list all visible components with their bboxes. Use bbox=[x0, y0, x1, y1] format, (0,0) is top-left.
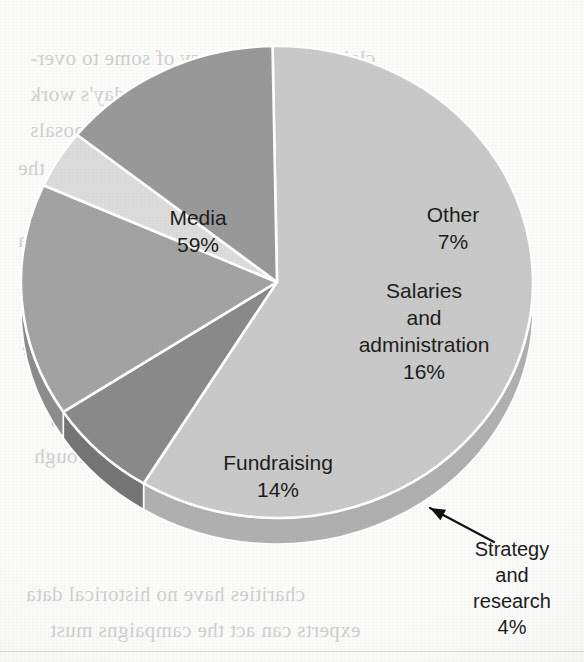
pie-label-line: and bbox=[495, 564, 528, 586]
callout-arrowhead bbox=[430, 508, 446, 520]
pie-label-line: Fundraising bbox=[223, 451, 333, 474]
scanned-page: claim, as the tendency of some to over-s… bbox=[0, 0, 584, 662]
pie-chart: Media59%Other7%Salariesandadministration… bbox=[0, 0, 584, 662]
pie-label-line: 16% bbox=[403, 360, 445, 383]
callout-arrow bbox=[430, 508, 494, 542]
pie-label-line: research bbox=[473, 590, 551, 612]
pie-label-line: 59% bbox=[177, 233, 219, 256]
pie-chart-svg: Media59%Other7%Salariesandadministration… bbox=[0, 0, 584, 662]
pie-label-line: administration bbox=[359, 333, 490, 356]
pie-label-line: and bbox=[406, 306, 441, 329]
pie-label-line: 7% bbox=[438, 230, 468, 253]
pie-label-line: Salaries bbox=[386, 279, 462, 302]
pie-label-line: Media bbox=[169, 206, 227, 229]
pie-label-line: Other bbox=[427, 203, 480, 226]
page-bottom-rule bbox=[0, 651, 584, 652]
pie-label-line: 4% bbox=[498, 616, 527, 638]
pie-label-line: Strategy bbox=[475, 538, 549, 560]
pie-label-line: 14% bbox=[257, 478, 299, 501]
pie-label-strategy-and-research: Strategyandresearch4% bbox=[473, 538, 551, 638]
